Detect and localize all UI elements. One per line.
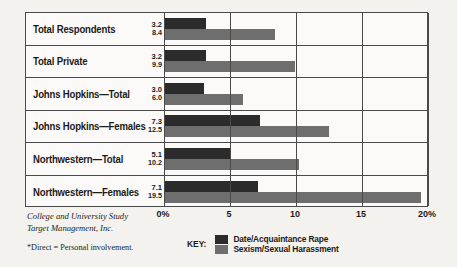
row-category-label: Total Respondents: [33, 23, 115, 34]
bar-sexism-sexual-harassment: [164, 192, 421, 203]
row-plot-area: [164, 111, 427, 143]
bar-date-acquaintance-rape: [164, 148, 231, 159]
row-plot-area: [164, 78, 427, 110]
row-category-label: Johns Hopkins—Females: [33, 121, 146, 132]
legend-item[interactable]: Date/Acquaintance Rape: [215, 234, 338, 244]
chart-row: Northwestern—Total5.110.2: [26, 143, 427, 176]
row-bar-group: [164, 18, 427, 40]
bar-date-acquaintance-rape: [164, 181, 258, 192]
chart-row: Total Private3.29.9: [26, 46, 427, 79]
chart-row: Johns Hopkins—Females7.312.5: [26, 111, 427, 144]
legend-item-label: Sexism/Sexual Harassment: [233, 244, 338, 254]
row-category-label: Johns Hopkins—Total: [33, 88, 130, 99]
row-value-labels: 3.06.0: [134, 86, 162, 101]
bar-sexism-sexual-harassment: [164, 159, 299, 170]
source-line-2: Target Management, Inc.: [27, 222, 167, 234]
row-value-secondary: 8.4: [134, 29, 162, 36]
row-value-secondary: 9.9: [134, 61, 162, 68]
row-value-secondary: 19.5: [134, 192, 162, 199]
source-citation: College and University Study Target Mana…: [27, 210, 167, 234]
row-plot-area: [164, 46, 427, 78]
row-category-label: Northwestern—Females: [33, 186, 139, 197]
x-axis-tick: 15: [356, 209, 366, 219]
chart-legend: KEY: Date/Acquaintance RapeSexism/Sexual…: [187, 234, 352, 254]
row-value-secondary: 6.0: [134, 94, 162, 101]
row-bar-group: [164, 148, 427, 170]
row-value-secondary: 12.5: [134, 126, 162, 133]
row-bar-group: [164, 50, 427, 72]
bar-date-acquaintance-rape: [164, 18, 206, 29]
row-value-labels: 3.28.4: [134, 21, 162, 36]
bar-date-acquaintance-rape: [164, 50, 206, 61]
row-value-labels: 7.312.5: [134, 119, 162, 134]
row-plot-area: [164, 143, 427, 175]
row-value-labels: 5.110.2: [134, 151, 162, 166]
row-value-secondary: 10.2: [134, 159, 162, 166]
bar-sexism-sexual-harassment: [164, 94, 243, 105]
bar-sexism-sexual-harassment: [164, 29, 275, 40]
chart-plot-frame: Total Respondents3.28.4Total Private3.29…: [25, 12, 428, 207]
row-plot-area: [164, 13, 427, 45]
gridline: [428, 13, 429, 206]
legend-item-label: Date/Acquaintance Rape: [233, 234, 328, 244]
legend-items: Date/Acquaintance RapeSexism/Sexual Hara…: [215, 234, 351, 254]
row-value-labels: 3.29.9: [134, 54, 162, 69]
legend-item[interactable]: Sexism/Sexual Harassment: [215, 244, 338, 254]
chart-figure: Total Respondents3.28.4Total Private3.29…: [0, 0, 457, 267]
x-axis-tick-labels: 0%5101520%: [163, 209, 428, 223]
x-axis-tick: 10: [290, 209, 300, 219]
row-category-label: Northwestern—Total: [33, 153, 123, 164]
legend-swatch-icon: [215, 245, 228, 254]
chart-row: Total Respondents3.28.4: [26, 13, 427, 46]
row-bar-group: [164, 115, 427, 137]
source-line-1: College and University Study: [27, 210, 167, 222]
x-axis-tick: 5: [226, 209, 231, 219]
row-category-label: Total Private: [33, 56, 87, 67]
bar-sexism-sexual-harassment: [164, 61, 295, 72]
legend-key-label: KEY:: [187, 239, 206, 249]
legend-swatch-icon: [215, 235, 228, 244]
row-bar-group: [164, 181, 427, 203]
row-value-labels: 7.119.5: [134, 184, 162, 199]
footnote-text: *Direct = Personal involvement.: [27, 243, 133, 252]
row-plot-area: [164, 176, 427, 209]
x-axis-tick: 20%: [418, 209, 436, 219]
chart-row: Northwestern—Females7.119.5: [26, 176, 427, 209]
chart-row: Johns Hopkins—Total3.06.0: [26, 78, 427, 111]
bar-date-acquaintance-rape: [164, 83, 204, 94]
bar-sexism-sexual-harassment: [164, 126, 329, 137]
bar-date-acquaintance-rape: [164, 115, 260, 126]
row-bar-group: [164, 83, 427, 105]
